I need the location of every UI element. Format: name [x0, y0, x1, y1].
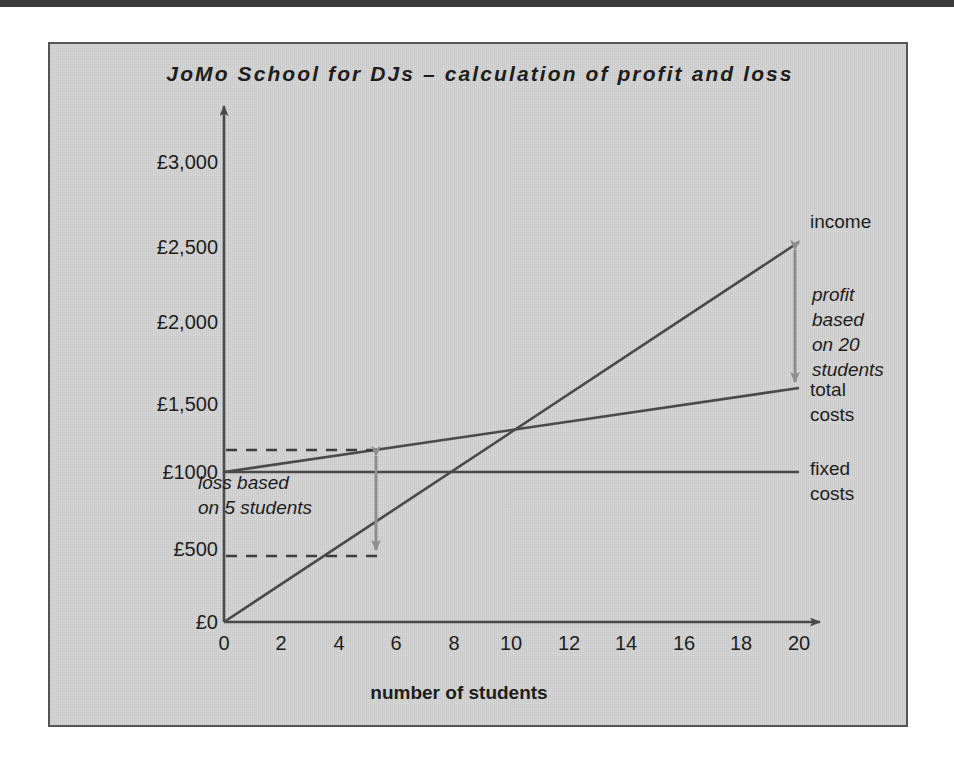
x-tick-2: 2	[275, 632, 286, 655]
annotation-profit: profit based on 20 students	[812, 282, 884, 382]
chart-figure-frame: JoMo School for DJs – calculation of pro…	[48, 42, 908, 727]
y-tick-2500: £2,500	[157, 236, 218, 259]
y-tick-1500: £1,500	[157, 393, 218, 416]
y-tick-500: £500	[174, 538, 219, 561]
top-rule-divider	[0, 0, 954, 7]
series-line-total-costs	[224, 388, 799, 472]
series-label-total-costs: total costs	[810, 377, 854, 427]
x-tick-0: 0	[218, 632, 229, 655]
x-tick-18: 18	[730, 632, 752, 655]
x-tick-10: 10	[500, 632, 522, 655]
x-tick-14: 14	[615, 632, 637, 655]
x-tick-16: 16	[673, 632, 695, 655]
x-tick-8: 8	[448, 632, 459, 655]
x-axis-title: number of students	[224, 682, 694, 704]
x-tick-12: 12	[558, 632, 580, 655]
x-tick-4: 4	[333, 632, 344, 655]
y-axis-tick-labels: £3,000 £2,500 £2,000 £1,500 £1000 £500 £…	[70, 44, 218, 729]
y-tick-2000: £2,000	[157, 311, 218, 334]
y-tick-3000: £3,000	[157, 151, 218, 174]
series-label-fixed-costs: fixed costs	[810, 456, 854, 506]
series-label-income: income	[810, 209, 871, 234]
annotation-loss: loss based on 5 students	[198, 470, 312, 520]
series-line-income	[224, 242, 799, 622]
plot-area: £3,000 £2,500 £2,000 £1,500 £1000 £500 £…	[50, 44, 910, 729]
x-tick-20: 20	[788, 632, 810, 655]
x-tick-6: 6	[390, 632, 401, 655]
y-tick-0: £0	[196, 611, 218, 634]
